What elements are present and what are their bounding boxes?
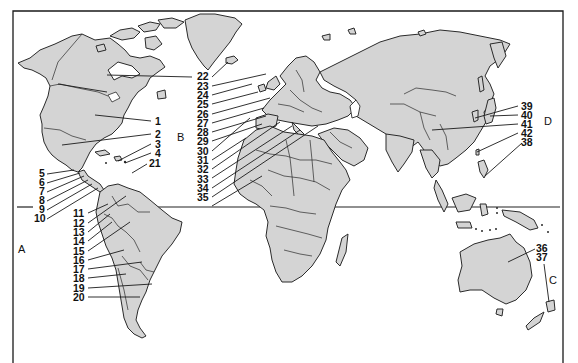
location-label: 21 [149, 157, 161, 169]
region-label-a: A [18, 243, 26, 255]
landmass-north-america [18, 34, 165, 172]
landmass-madagascar [336, 234, 348, 266]
location-label: 1 [155, 115, 161, 127]
landmass-india [386, 134, 414, 172]
region-label-b: B [177, 131, 184, 143]
landmass-new-guinea [502, 210, 538, 230]
location-label: 10 [34, 212, 46, 224]
location-label: 38 [521, 136, 533, 148]
location-label: 20 [73, 291, 85, 303]
landmass-australia [458, 234, 532, 304]
region-label-d: D [544, 115, 552, 127]
region-label-c: C [549, 274, 557, 286]
landmass-new-zealand [546, 300, 555, 312]
location-label: 37 [536, 251, 548, 263]
location-label: 35 [197, 191, 209, 203]
landmass-central-america [78, 170, 104, 192]
world-map: 1 2 3 4 21 5 6 7 8 9 10 11 12 13 14 15 1… [0, 0, 578, 363]
